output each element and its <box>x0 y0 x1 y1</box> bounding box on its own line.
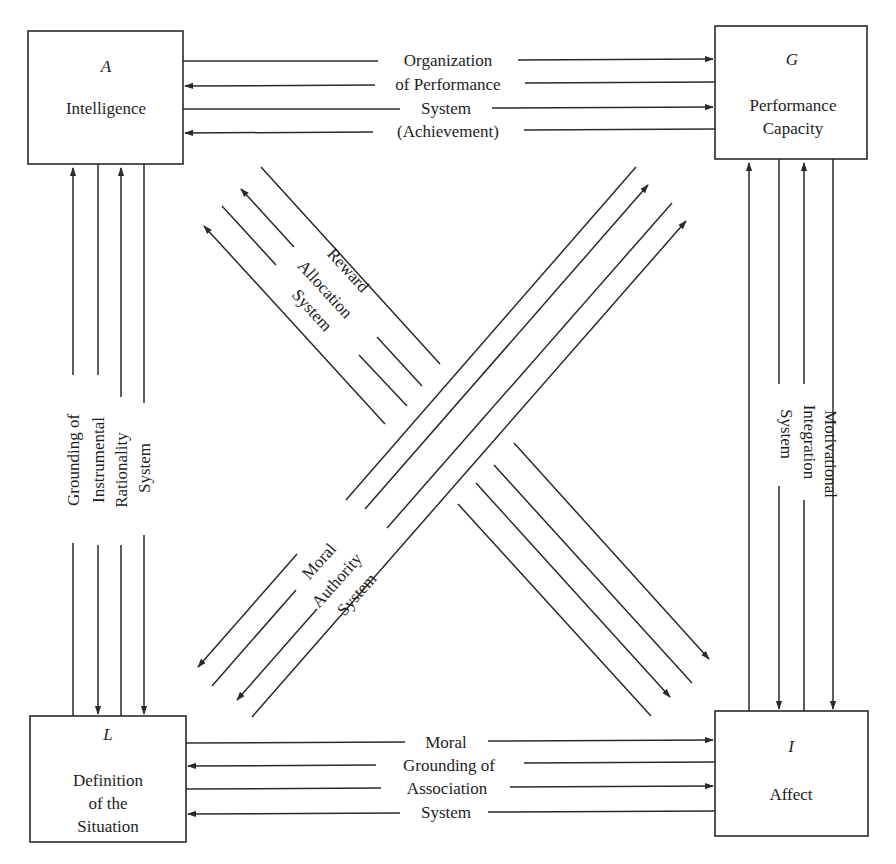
top-line-2-right <box>525 82 715 83</box>
swne-arrow-3-sw <box>237 609 317 700</box>
bottom-line-2-right <box>524 762 716 763</box>
right-label-3: System <box>777 409 796 459</box>
nwse-line-4-se <box>458 504 651 716</box>
nwse-arrow-2-nw <box>241 189 294 247</box>
nwse-line-3-nw <box>222 206 276 265</box>
box-g-label-2: Capacity <box>763 119 824 138</box>
right-label-2: Integration <box>800 405 819 480</box>
top-line-4-right <box>524 129 715 130</box>
box-a-intelligence: A Intelligence <box>28 31 183 164</box>
top-arrow-3-right <box>492 107 713 108</box>
left-label-4: System <box>135 443 154 493</box>
bottom-label-3: Association <box>407 779 488 798</box>
box-i-label: Affect <box>769 785 812 804</box>
left-label-2: Instrumental <box>89 417 108 503</box>
bottom-arrow-1-right <box>488 740 713 741</box>
right-interchange: System Integration Motivational <box>749 159 840 711</box>
nwse-arrow-4-nw <box>204 226 385 424</box>
nwse-line-2-se <box>494 465 692 683</box>
nwse-arrow-3-se <box>476 483 670 697</box>
box-g-performance-capacity: G Performance Capacity <box>715 26 867 159</box>
top-label-1: Organization <box>404 51 493 70</box>
top-label-2: of Performance <box>395 75 500 94</box>
swne-line-2-sw <box>212 590 296 686</box>
box-g-label-1: Performance <box>750 96 837 115</box>
box-a-label: Intelligence <box>66 99 146 118</box>
bottom-arrow-2-left <box>188 765 376 766</box>
left-label-3: Rationality <box>112 432 131 508</box>
bottom-line-1-left <box>186 742 405 743</box>
left-interchange: Grounding of Instrumental Rationality Sy… <box>64 164 154 716</box>
top-arrow-1-right <box>518 59 713 60</box>
nwse-arrow-1-se <box>514 443 709 659</box>
reward-allocation-interchange: Reward Allocation System <box>204 167 709 716</box>
top-interchange: Organization of Performance System (Achi… <box>183 51 715 141</box>
bottom-line-3-left <box>186 788 381 789</box>
right-label-1: Motivational <box>821 410 840 498</box>
bottom-label-2: Grounding of <box>403 756 495 775</box>
swne-arrow-1-sw <box>198 554 297 667</box>
swne-arrow-2-ne <box>365 185 648 509</box>
bottom-line-4-right <box>488 811 716 812</box>
swne-line-1-ne <box>346 167 636 500</box>
top-label-3: System <box>421 99 471 118</box>
box-l-letter: L <box>102 725 112 744</box>
box-l-label-2: of the <box>88 794 127 813</box>
nwse-line-2-mid <box>377 337 422 386</box>
top-label-4: (Achievement) <box>397 122 499 141</box>
box-l-label-3: Situation <box>77 817 139 836</box>
bottom-arrow-3-right <box>510 786 713 787</box>
bottom-label-4: System <box>421 803 471 822</box>
box-i-affect: I Affect <box>715 711 868 836</box>
top-arrow-4-left <box>185 132 373 133</box>
box-l-definition-of-situation: L Definition of the Situation <box>30 716 186 842</box>
box-g-letter: G <box>786 50 798 69</box>
bottom-interchange: Moral Grounding of Association System <box>186 733 716 822</box>
bottom-label-1: Moral <box>425 733 467 752</box>
swne-line-3-ne <box>387 203 672 528</box>
box-l-label-1: Definition <box>73 771 143 790</box>
top-arrow-2-left <box>185 85 375 86</box>
left-label-1: Grounding of <box>64 414 83 506</box>
box-a-letter: A <box>100 57 112 76</box>
bottom-arrow-4-left <box>188 813 400 814</box>
agil-diagram: Organization of Performance System (Achi… <box>0 0 896 864</box>
